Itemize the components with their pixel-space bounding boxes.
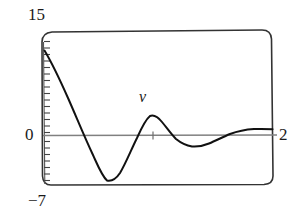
- y-axis-max-label: 15: [28, 6, 45, 23]
- x-axis-line: [43, 135, 277, 136]
- calculator-graph-screenshot: 15 −7 0 2 v: [0, 0, 299, 223]
- curve-v: [45, 51, 273, 181]
- x-axis-max-label: 2: [279, 126, 288, 143]
- curve-label-v: v: [139, 89, 146, 105]
- y-axis-min-label: −7: [28, 192, 46, 209]
- graph-window-frame: [42, 30, 273, 185]
- plot-area: [0, 0, 299, 223]
- y-axis-zero-label: 0: [25, 126, 34, 143]
